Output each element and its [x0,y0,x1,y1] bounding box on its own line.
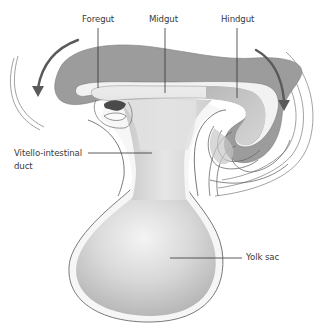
yolk-sac-label: Yolk sac [246,252,279,263]
diagram-canvas: Foregut Midgut Hindgut Vitello-intestina… [0,0,324,326]
vitello-intestinal-label-line1: Vitello-intestinal [14,148,82,159]
vitello-intestinal-label-line2: duct [14,161,33,172]
yolk-sac-inner [76,196,216,316]
embryo-diagram [0,0,324,326]
hindgut-label: Hindgut [221,14,254,25]
foregut-label: Foregut [82,14,114,25]
midgut-label: Midgut [149,14,178,25]
